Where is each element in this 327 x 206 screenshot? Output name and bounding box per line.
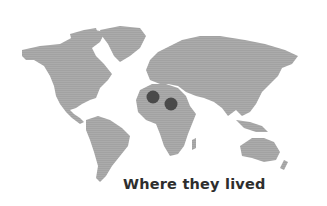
new-zealand <box>280 160 288 170</box>
north-america <box>22 30 112 124</box>
southeast-asia-islands <box>236 120 268 132</box>
greenland <box>100 26 146 62</box>
africa <box>136 84 196 156</box>
map-caption: Where they lived <box>0 176 327 192</box>
location-marker[interactable] <box>147 91 160 104</box>
location-marker[interactable] <box>165 98 178 111</box>
australia <box>240 138 280 162</box>
south-america <box>86 116 130 182</box>
land-masses <box>22 26 298 182</box>
madagascar <box>192 138 196 150</box>
